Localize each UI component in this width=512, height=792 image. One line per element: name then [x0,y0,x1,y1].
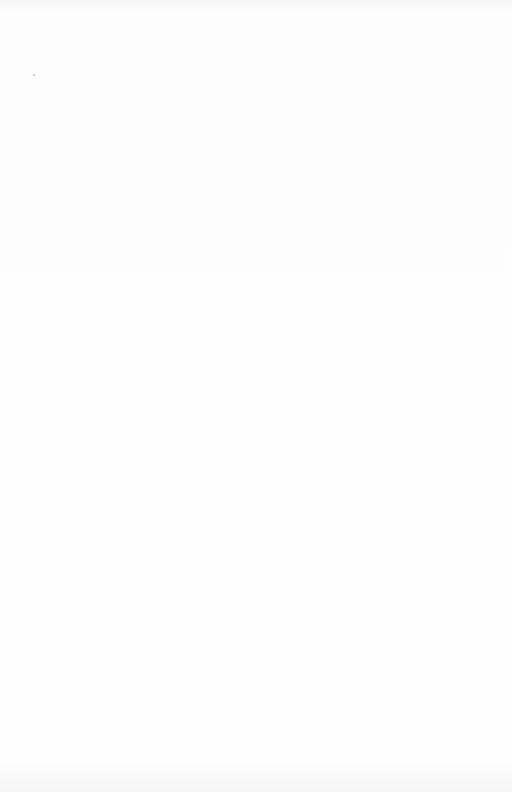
lined-paper [0,0,512,792]
paper-speck [33,74,35,76]
